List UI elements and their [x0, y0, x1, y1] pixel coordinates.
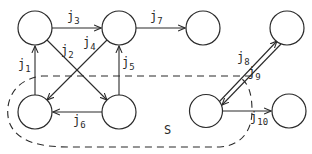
node-bottom-left[interactable] — [18, 95, 52, 129]
label-j1: j1 — [18, 57, 31, 74]
label-j7: j7 — [150, 9, 163, 26]
label-j4: j4 — [83, 35, 96, 52]
node-top-left[interactable] — [18, 11, 52, 45]
label-j2: j2 — [61, 43, 74, 60]
label-j5: j5 — [122, 55, 135, 72]
node-top-middle[interactable] — [102, 11, 136, 45]
label-j6: j6 — [73, 113, 86, 130]
set-s-label: S — [164, 123, 171, 137]
node-bottom-middle[interactable] — [102, 95, 136, 129]
label-j3: j3 — [67, 9, 80, 26]
node-bottom-right-2[interactable] — [272, 94, 306, 128]
node-top-right-1[interactable] — [186, 11, 220, 45]
label-j10: j10 — [250, 110, 268, 127]
node-top-right-2[interactable] — [270, 11, 304, 45]
flow-network-diagram: S j1 j2 j3 j4 j5 j6 j7 j8 j9 j10 — [0, 0, 312, 154]
node-bottom-right-1[interactable] — [190, 95, 223, 128]
